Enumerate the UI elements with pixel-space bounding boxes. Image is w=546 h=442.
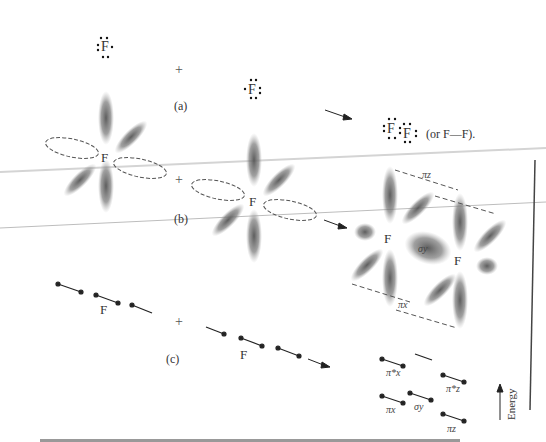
energy-axis-label: Energy (506, 388, 517, 420)
orbital-pi-x-star: π*x (386, 368, 400, 378)
scan-rule-1 (0, 148, 546, 172)
plus-b: + (175, 173, 183, 187)
lewis-f2-left: F (387, 122, 395, 136)
lewis-f-atom-2: F (248, 83, 256, 97)
lewis-f2-right: F (403, 127, 411, 141)
f2-molecule-diagram (0, 0, 546, 442)
label-part-c: (c) (166, 353, 179, 365)
lewis-alt-text: (or F—F). (426, 128, 475, 140)
page-edge (530, 160, 535, 410)
label-part-a: (a) (174, 100, 187, 112)
atom-label-1: F (101, 151, 108, 164)
orbital-sigma-y-center: σy (418, 244, 427, 254)
atom-label-3: F (384, 232, 391, 245)
plus-c: + (175, 315, 183, 329)
molecule-orbitals (346, 166, 510, 329)
lewis-f-atom-1: F (101, 40, 109, 54)
orbital-pi-x-bottom: πx (398, 300, 407, 310)
orbital-pi-z-star: π*z (446, 384, 460, 394)
orbital-pi-z: πz (447, 424, 456, 434)
orbital-sigma-y: σy (414, 402, 423, 412)
plus-a: + (175, 63, 183, 77)
atom-label-6: F (240, 348, 247, 361)
atom-label-5: F (100, 303, 107, 316)
label-part-b: (b) (174, 213, 188, 225)
orbital-pi-x: πx (386, 405, 395, 415)
atom-label-2: F (249, 195, 256, 208)
atom-label-4: F (454, 254, 461, 267)
orbital-pi-z-top: πz (422, 170, 431, 180)
